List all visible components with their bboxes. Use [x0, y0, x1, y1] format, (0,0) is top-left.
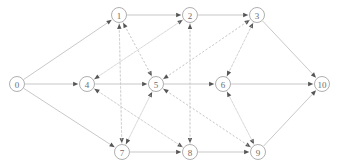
arrowhead-7-to-8	[176, 150, 181, 154]
node-label-6: 6	[221, 80, 226, 90]
node-label-0: 0	[15, 80, 20, 90]
diagram-canvas: 012345678910	[0, 0, 339, 168]
node-6[interactable]: 6	[216, 77, 231, 92]
arrowhead-1-to-2	[176, 13, 181, 17]
arrowhead-7-to-1	[117, 24, 121, 29]
edges-layer	[24, 13, 316, 154]
arrowhead-0-to-7	[109, 143, 115, 148]
node-0[interactable]: 0	[10, 77, 25, 92]
node-label-4: 4	[85, 80, 90, 90]
edge-9-to-10	[264, 94, 313, 146]
arrowhead-8-to-4	[94, 89, 100, 94]
node-label-5: 5	[154, 80, 159, 90]
node-7[interactable]: 7	[115, 145, 130, 160]
arrowhead-6-to-10	[308, 82, 313, 86]
arrowhead-8-to-2	[188, 24, 192, 29]
arrowhead-3-to-5	[163, 74, 169, 79]
nodes-layer: 012345678910	[10, 8, 330, 160]
arrowhead-2-to-4	[94, 74, 100, 79]
graph-svg: 012345678910	[0, 0, 339, 168]
node-8[interactable]: 8	[183, 145, 198, 160]
node-4[interactable]: 4	[80, 77, 95, 92]
node-1[interactable]: 1	[112, 8, 127, 23]
arrowhead-0-to-4	[73, 82, 78, 86]
node-label-10: 10	[318, 80, 328, 90]
node-label-9: 9	[256, 148, 261, 158]
arrowhead-5-to-6	[209, 82, 214, 86]
node-9[interactable]: 9	[251, 145, 266, 160]
node-label-1: 1	[117, 11, 122, 21]
arrowhead-0-to-1	[106, 20, 112, 25]
node-10[interactable]: 10	[315, 77, 330, 92]
arrowhead-2-to-3	[243, 13, 248, 17]
node-label-3: 3	[255, 11, 260, 21]
edge-1-to-7	[119, 23, 122, 138]
node-label-7: 7	[120, 148, 125, 158]
node-5[interactable]: 5	[149, 77, 164, 92]
arrowhead-9-to-5	[163, 89, 169, 94]
edge-3-to-5	[167, 20, 250, 77]
node-label-8: 8	[188, 148, 193, 158]
edge-5-to-1	[126, 27, 153, 77]
edge-0-to-7	[24, 88, 111, 144]
arrowhead-8-to-9	[244, 150, 249, 154]
node-2[interactable]: 2	[183, 8, 198, 23]
node-3[interactable]: 3	[250, 8, 265, 23]
edge-3-to-10	[263, 21, 313, 74]
node-label-2: 2	[188, 11, 193, 21]
edge-7-to-1	[119, 29, 122, 144]
edge-0-to-1	[24, 23, 108, 80]
arrowhead-4-to-5	[142, 82, 147, 86]
